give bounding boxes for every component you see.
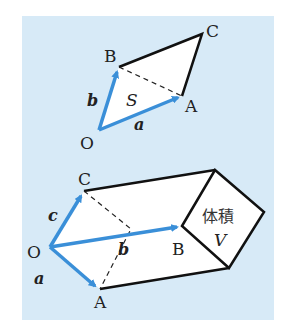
vector-b-label: b — [87, 91, 98, 110]
vector-a-label: a — [134, 115, 144, 134]
point-a-label: A — [184, 96, 198, 116]
point-b-label-3d: B — [172, 239, 185, 259]
point-o-label-3d: O — [27, 242, 41, 262]
vector-diagrams: B C A O b a S C O A B c a b 体積 V — [0, 0, 291, 323]
area-s-label: S — [126, 90, 138, 110]
volume-v-label: V — [214, 230, 228, 250]
point-c-label-3d: C — [78, 169, 91, 189]
vector-b-label-3d: b — [118, 240, 129, 259]
vector-a-label-3d: a — [34, 269, 44, 288]
point-o-label: O — [80, 133, 94, 153]
point-c-label: C — [206, 21, 219, 41]
vector-c-label: c — [48, 206, 58, 225]
parallelepiped-figure: C O A B c a b 体積 V — [27, 169, 264, 312]
parallelogram-figure: B C A O b a S — [80, 21, 219, 153]
point-b-label: B — [104, 46, 117, 66]
point-a-label-3d: A — [93, 292, 107, 312]
volume-text: 体積 — [202, 207, 234, 226]
